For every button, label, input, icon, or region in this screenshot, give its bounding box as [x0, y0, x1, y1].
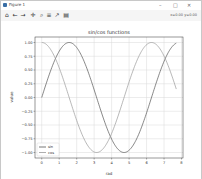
y-tick-label: 0.50 — [24, 68, 33, 72]
x-tick-label: 0 — [41, 161, 44, 165]
x-axis-label: rad — [106, 171, 113, 176]
y-tick-label: 0.00 — [24, 96, 33, 100]
y-tick-label: −0.25 — [21, 110, 32, 114]
maximize-button[interactable]: □ — [173, 2, 178, 8]
x-tick-label: 1 — [58, 161, 60, 165]
toolbar: ⌂ ← → ✛ ⌕ ≡ ↗ ▤ x=0.00 y=0.00 — [1, 10, 201, 21]
save-icon[interactable]: ▤ — [63, 12, 69, 18]
x-tick-label: 6 — [145, 161, 148, 165]
x-tick-label: 8 — [180, 161, 183, 165]
x-tick-label: 3 — [93, 161, 95, 165]
window-title: Figure 1 — [9, 2, 25, 7]
x-tick-label: 5 — [128, 161, 130, 165]
forward-icon[interactable]: → — [20, 12, 26, 18]
y-tick-label: 0.75 — [24, 55, 32, 59]
x-tick-label: 4 — [110, 161, 113, 165]
x-tick-label: 2 — [76, 161, 78, 165]
legend: sincos — [37, 143, 59, 156]
close-button[interactable]: ✕ — [187, 2, 191, 8]
x-tick-label: 7 — [163, 161, 165, 165]
figure-canvas[interactable]: sin/cos functions rad value 0123456781.0… — [1, 21, 201, 179]
y-tick-label: 1.00 — [24, 41, 33, 45]
legend-label-sin: sin — [48, 145, 53, 149]
title-bar: Figure 1 – □ ✕ — [1, 1, 201, 10]
back-icon[interactable]: ← — [12, 12, 18, 18]
coordinate-readout: x=0.00 y=0.00 — [170, 13, 197, 17]
y-tick-label: −0.75 — [21, 137, 32, 141]
configure-subplots-icon[interactable]: ≡ — [46, 12, 52, 18]
chart-title: sin/cos functions — [88, 29, 130, 35]
minimize-button[interactable]: – — [159, 2, 162, 8]
y-tick-label: 0.25 — [24, 82, 32, 86]
app-icon — [3, 3, 7, 7]
legend-label-cos: cos — [48, 151, 54, 155]
edit-axis-icon[interactable]: ↗ — [54, 12, 60, 18]
home-icon[interactable]: ⌂ — [4, 12, 10, 18]
pan-icon[interactable]: ✛ — [30, 12, 36, 18]
chart-svg: sin/cos functions rad value 0123456781.0… — [1, 21, 201, 179]
y-tick-label: −1.00 — [21, 151, 33, 155]
y-axis-label: value — [9, 91, 14, 102]
zoom-icon[interactable]: ⌕ — [38, 12, 44, 18]
figure-window: Figure 1 – □ ✕ ⌂ ← → ✛ ⌕ ≡ ↗ ▤ x=0.00 y=… — [0, 0, 202, 179]
y-tick-label: −0.50 — [21, 123, 33, 127]
